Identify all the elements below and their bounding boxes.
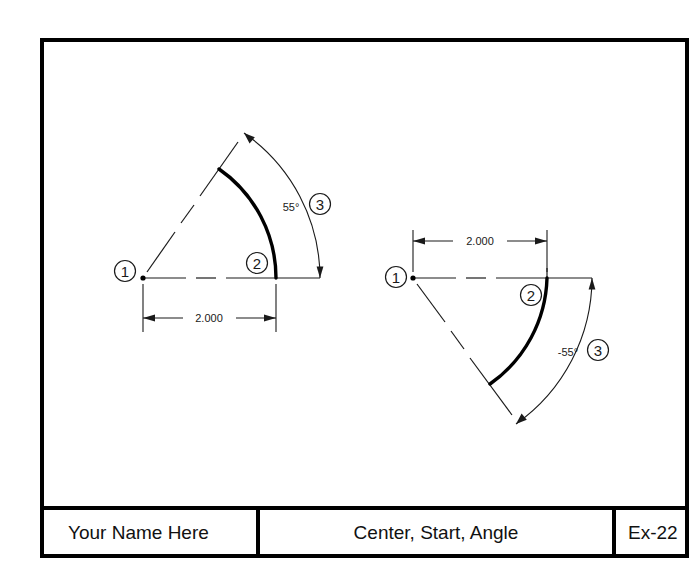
right-dim-arrow-right [535,238,547,245]
right-marker-2-text: 2 [527,287,535,304]
left-radius-dimension-text: 2.000 [195,312,223,324]
left-center-point [140,275,145,280]
right-figure: 2.000 -55° 1 2 3 [386,230,609,424]
right-dim-arrow-left [413,238,425,245]
left-marker-3: 3 [310,194,331,215]
right-marker-2: 2 [521,285,542,306]
right-marker-3: 3 [588,340,609,361]
left-inclined-centerline [147,142,238,272]
drawing-sheet: 2.000 55° 1 2 3 [0,0,695,586]
right-marker-1: 1 [386,267,407,288]
right-radius-dimension-text: 2.000 [466,235,494,247]
right-marker-1-text: 1 [392,269,400,286]
right-angle-dimension-text: -55° [558,346,578,358]
left-marker-1: 1 [115,261,136,282]
left-marker-3-text: 3 [316,196,324,213]
left-dim-arrow-right [264,315,276,322]
left-marker-2: 2 [247,253,268,274]
left-angle-arrow-start [317,267,324,279]
right-angle-arrow-end [516,413,527,424]
left-marker-1-text: 1 [121,263,129,280]
right-marker-3-text: 3 [594,342,602,359]
left-angle-dimension-text: 55° [283,201,300,213]
left-radius-dimension: 2.000 [143,284,276,332]
right-angle-arrow-start [589,278,596,290]
left-marker-2-text: 2 [253,255,261,272]
left-figure: 2.000 55° 1 2 3 [115,133,331,332]
title-block-name-field: Your Name Here [68,522,209,543]
left-dim-arrow-left [143,315,155,322]
left-angle-arrow-end [244,133,255,144]
right-inclined-centerline [417,284,512,415]
sheet-border [42,40,687,556]
technical-drawing-canvas: 2.000 55° 1 2 3 [0,0,695,586]
title-block-number-field: Ex-22 [628,522,678,543]
title-block-title-field: Center, Start, Angle [354,522,519,543]
right-center-point [410,275,415,280]
right-radius-dimension: 2.000 [413,230,547,272]
